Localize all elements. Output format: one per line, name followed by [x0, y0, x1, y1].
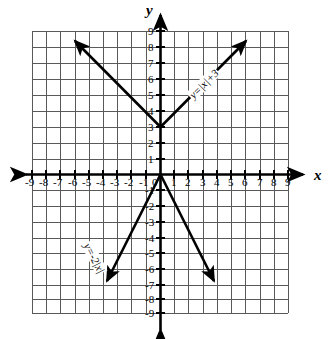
x-tick-label: 4: [214, 177, 220, 188]
y-tick-label: -4: [145, 233, 154, 244]
x-tick-label: -4: [96, 177, 105, 188]
y-tick-label: -8: [145, 294, 154, 305]
y-tick-label: 1: [148, 154, 154, 165]
x-tick-label: 2: [185, 177, 191, 188]
y-axis-label: y: [146, 3, 153, 18]
y-tick-label: 3: [148, 122, 154, 133]
x-tick-label: -2: [124, 177, 133, 188]
y-tick-label: 8: [148, 42, 154, 53]
x-tick-label: 7: [257, 177, 263, 188]
y-tick-label: -9: [145, 308, 154, 319]
y-tick-label: 5: [148, 90, 154, 101]
x-tick-label: -5: [82, 177, 91, 188]
x-tick-label: -6: [68, 177, 77, 188]
y-tick-label: 2: [148, 138, 154, 149]
y-tick-label: -5: [145, 248, 154, 259]
x-tick-label: 9: [285, 177, 291, 188]
x-tick-label: 8: [271, 177, 277, 188]
coordinate-plane-graph: x y -9 -8 -7 -6 -5 -4 -3 -2 -1 0 1 2 3 4…: [0, 0, 330, 339]
x-tick-label: -7: [53, 177, 62, 188]
x-tick-label: 6: [242, 177, 248, 188]
y-tick-label: -1: [145, 185, 154, 196]
y-tick-label: -6: [145, 264, 154, 275]
y-tick-label: -2: [145, 201, 154, 212]
x-tick-label: -3: [110, 177, 119, 188]
y-tick-label: -7: [145, 280, 154, 291]
x-tick-label: 1: [171, 177, 177, 188]
x-tick-label: -9: [25, 177, 34, 188]
graph-canvas: [0, 0, 330, 339]
axis-lines: [26, 15, 303, 330]
y-tick-label: 4: [148, 106, 154, 117]
y-tick-label: 6: [148, 74, 154, 85]
x-tick-label: 5: [228, 177, 234, 188]
x-axis-label: x: [314, 168, 322, 183]
y-tick-label: -3: [145, 217, 154, 228]
x-tick-label: -8: [39, 177, 48, 188]
y-tick-label: 9: [148, 26, 154, 37]
y-tick-label: 7: [148, 58, 154, 69]
x-tick-label: 3: [200, 177, 206, 188]
